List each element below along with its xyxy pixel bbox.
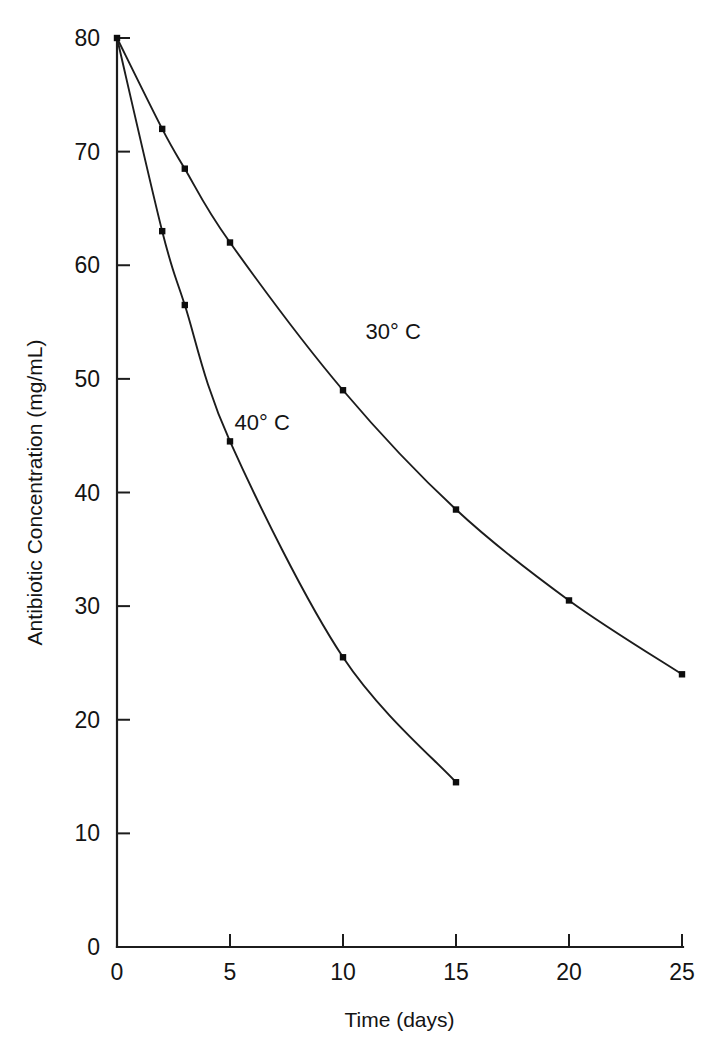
x-tick-label: 10 [330, 959, 356, 985]
series-label-30c: 30° C [366, 319, 421, 344]
data-point-marker [182, 302, 188, 308]
data-point-marker [227, 239, 233, 245]
x-tick-label: 20 [556, 959, 582, 985]
y-tick-label: 0 [87, 934, 100, 960]
y-tick-label: 30 [74, 593, 100, 619]
y-tick-label: 40 [74, 480, 100, 506]
y-tick-label: 70 [74, 139, 100, 165]
data-point-marker-origin [114, 35, 120, 41]
data-point-marker [159, 228, 165, 234]
chart-figure: 01020304050607080 0510152025 30° C 40° C… [0, 0, 720, 1051]
x-axis-title: Time (days) [344, 1008, 454, 1031]
antibiotic-degradation-line-chart: 01020304050607080 0510152025 30° C 40° C… [0, 0, 720, 1051]
y-tick-label: 20 [74, 707, 100, 733]
data-point-marker [159, 126, 165, 132]
data-point-marker [340, 654, 346, 660]
x-tick-label: 0 [111, 959, 124, 985]
data-point-marker [227, 438, 233, 444]
x-tick-label: 5 [224, 959, 237, 985]
data-point-marker [453, 779, 459, 785]
data-point-marker [340, 387, 346, 393]
data-point-marker [566, 597, 572, 603]
chart-background [0, 0, 720, 1051]
y-tick-label: 10 [74, 820, 100, 846]
y-tick-label: 80 [74, 25, 100, 51]
data-point-marker [453, 506, 459, 512]
x-tick-label: 15 [443, 959, 469, 985]
y-tick-label: 50 [74, 366, 100, 392]
x-tick-label: 25 [669, 959, 695, 985]
data-point-marker [679, 671, 685, 677]
y-axis-title: Antibiotic Concentration (mg/mL) [23, 340, 46, 646]
y-tick-label: 60 [74, 252, 100, 278]
data-point-marker [182, 165, 188, 171]
series-label-40c: 40° C [235, 410, 290, 435]
